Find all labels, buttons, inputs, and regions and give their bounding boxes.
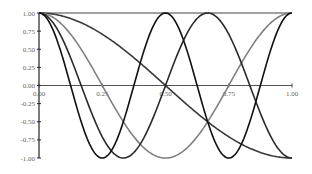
y-tick-label: 0.50: [23, 46, 36, 54]
y-tick-label: -1.00: [20, 155, 35, 163]
x-tick-label: 1.00: [286, 90, 299, 98]
y-tick-label: -0.25: [20, 100, 35, 108]
y-tick-label: 0.25: [23, 64, 36, 72]
y-tick-label: 0.75: [23, 28, 36, 36]
y-tick-label: -0.75: [20, 136, 35, 144]
plot-area: 1.000.750.500.250.00-0.25-0.50-0.75-1.00…: [0, 0, 312, 174]
chart: 1.000.750.500.250.00-0.25-0.50-0.75-1.00…: [0, 0, 312, 174]
y-tick-label: 1.00: [23, 10, 36, 18]
y-tick-label: -0.50: [20, 118, 35, 126]
x-tick-label: 0.00: [33, 90, 46, 98]
